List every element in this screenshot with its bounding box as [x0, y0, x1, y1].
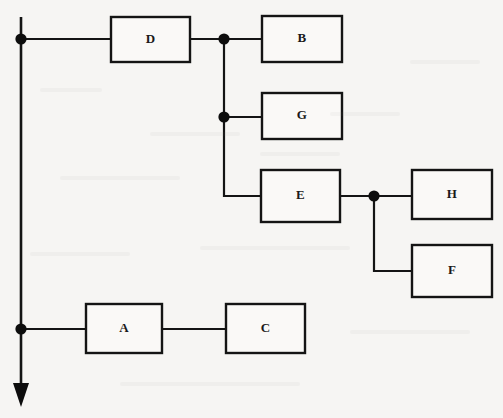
- edge-group: [21, 17, 412, 390]
- node-g-label: G: [297, 107, 307, 122]
- node-f-label: F: [448, 262, 456, 277]
- junction-dot-trunk-bottom: [15, 323, 26, 334]
- node-h[interactable]: H: [412, 170, 492, 219]
- junction-dot-e-out: [368, 190, 379, 201]
- junction-dot-trunk-top: [15, 33, 26, 44]
- node-d-label: D: [146, 31, 156, 46]
- node-e[interactable]: E: [261, 170, 340, 222]
- node-a-label: A: [119, 320, 129, 335]
- junction-dot-d-out: [218, 33, 229, 44]
- flow-arrow-down-icon: [13, 383, 29, 407]
- diagram-svg: D B G E H F: [0, 0, 503, 418]
- node-g[interactable]: G: [262, 93, 342, 139]
- node-e-label: E: [296, 187, 305, 202]
- node-a[interactable]: A: [86, 304, 162, 353]
- node-d[interactable]: D: [111, 17, 190, 62]
- node-b[interactable]: B: [262, 16, 342, 62]
- diagram-canvas: D B G E H F: [0, 0, 503, 418]
- node-group: D B G E H F: [86, 16, 492, 353]
- node-c[interactable]: C: [226, 304, 305, 353]
- junction-dot-g-in: [218, 111, 229, 122]
- node-h-label: H: [447, 186, 457, 201]
- node-f[interactable]: F: [412, 245, 492, 297]
- node-b-label: B: [298, 30, 307, 45]
- node-c-label: C: [261, 320, 271, 335]
- edge-junction-to-f: [374, 196, 412, 271]
- edge-g-down-to-e: [224, 117, 261, 196]
